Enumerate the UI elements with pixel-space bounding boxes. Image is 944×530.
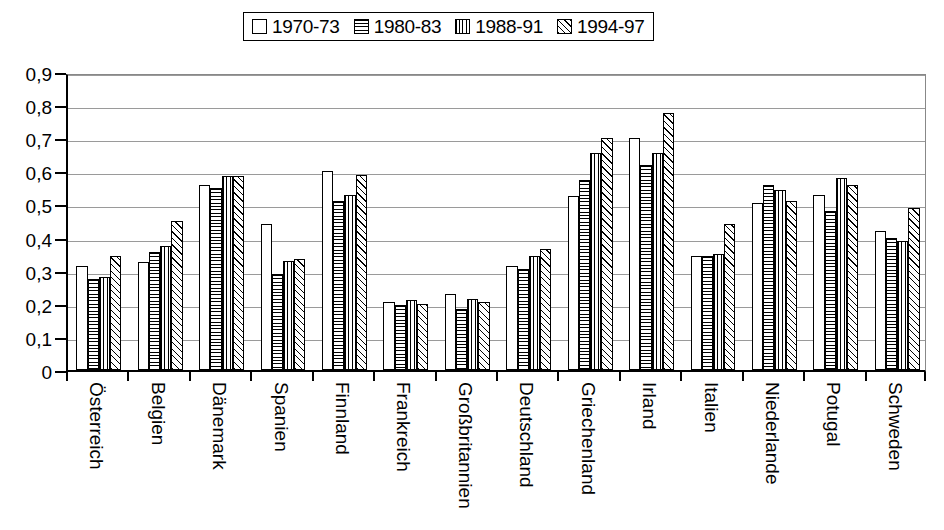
bar xyxy=(763,185,774,370)
bar xyxy=(261,224,272,370)
x-tick-mark xyxy=(127,372,129,381)
bar xyxy=(88,279,99,370)
x-tick-mark xyxy=(924,372,926,381)
bar xyxy=(713,254,724,370)
bar xyxy=(356,175,367,370)
legend-label: 1988-91 xyxy=(475,17,543,36)
y-tick-label: 0,2 xyxy=(26,296,52,315)
legend-swatch-horizontal-lines-icon xyxy=(354,19,369,34)
x-axis-label: Großbritannien xyxy=(456,382,475,509)
bar xyxy=(691,256,702,370)
legend-label: 1980-83 xyxy=(374,17,442,36)
bar xyxy=(272,274,283,370)
x-axis-label: Österreich xyxy=(87,382,106,470)
x-tick-mark xyxy=(435,372,437,381)
bar xyxy=(149,252,160,370)
bar-group xyxy=(252,75,313,370)
y-tick-mark xyxy=(55,305,66,307)
x-tick-mark xyxy=(619,372,621,381)
y-tick-mark xyxy=(55,139,66,141)
y-tick-mark xyxy=(55,172,66,174)
x-tick-mark xyxy=(373,372,375,381)
bar xyxy=(76,266,87,370)
bar xyxy=(222,176,233,370)
y-tick-label: 0,6 xyxy=(26,164,52,183)
y-tick-mark xyxy=(55,338,66,340)
bar xyxy=(568,196,579,370)
bar-group xyxy=(867,75,925,370)
x-axis-label: Italien xyxy=(702,382,721,433)
bar xyxy=(601,138,612,370)
bar xyxy=(138,262,149,370)
legend-entry-1980-83[interactable]: 1980-83 xyxy=(354,17,442,36)
x-tick-mark xyxy=(312,372,314,381)
bar-group xyxy=(191,75,252,370)
bar xyxy=(395,305,406,370)
bar-group xyxy=(437,75,498,370)
y-tick-label: 0,9 xyxy=(26,65,52,84)
x-tick-mark xyxy=(865,372,867,381)
bar xyxy=(774,190,785,370)
y-tick-mark xyxy=(55,106,66,108)
y-tick-mark xyxy=(55,239,66,241)
bar xyxy=(629,138,640,370)
bar xyxy=(702,256,713,370)
bar xyxy=(478,302,489,370)
bar-group xyxy=(805,75,866,370)
bar xyxy=(908,208,919,370)
y-tick-label: 0,4 xyxy=(26,230,52,249)
legend-entry-1970-73[interactable]: 1970-73 xyxy=(252,17,340,36)
legend-swatch-vertical-lines-icon xyxy=(455,19,470,34)
plot-frame xyxy=(66,74,926,372)
bar xyxy=(467,299,478,370)
bar xyxy=(171,221,182,370)
bar xyxy=(897,241,908,370)
x-tick-mark xyxy=(66,372,68,381)
plot-area xyxy=(68,75,925,370)
bar xyxy=(233,176,244,370)
bar-group xyxy=(375,75,436,370)
bar xyxy=(210,188,221,370)
bar xyxy=(406,300,417,370)
x-axis-label: Spanien xyxy=(272,382,291,452)
bar xyxy=(579,180,590,370)
bar-group xyxy=(68,75,129,370)
bar-group xyxy=(744,75,805,370)
x-axis-label: Finnland xyxy=(333,382,352,455)
bar xyxy=(383,302,394,370)
legend-entry-1994-97[interactable]: 1994-97 xyxy=(557,17,645,36)
bar xyxy=(160,246,171,370)
bar xyxy=(663,113,674,370)
x-axis-label: Frankreich xyxy=(394,382,413,472)
bar xyxy=(540,249,551,370)
bar xyxy=(333,201,344,370)
bar xyxy=(99,277,110,370)
legend-entry-1988-91[interactable]: 1988-91 xyxy=(455,17,543,36)
bar xyxy=(724,224,735,370)
bar xyxy=(199,185,210,370)
y-tick-mark xyxy=(55,272,66,274)
y-tick-mark xyxy=(55,73,66,75)
bar xyxy=(825,211,836,370)
bar-group xyxy=(129,75,190,370)
x-axis-label: Belgien xyxy=(149,382,168,445)
bar xyxy=(590,153,601,370)
bar xyxy=(110,256,121,370)
legend-swatch-empty-icon xyxy=(252,19,267,34)
bar xyxy=(456,309,467,370)
x-tick-mark xyxy=(250,372,252,381)
x-axis-label: Deutschland xyxy=(517,382,536,488)
y-tick-label: 0,1 xyxy=(26,329,52,348)
bar xyxy=(847,185,858,370)
bar xyxy=(836,178,847,370)
x-tick-mark xyxy=(557,372,559,381)
bar xyxy=(518,269,529,370)
bar xyxy=(417,304,428,370)
bar xyxy=(283,261,294,370)
y-tick-mark xyxy=(55,205,66,207)
legend-label: 1994-97 xyxy=(577,17,645,36)
bar xyxy=(640,165,651,370)
bar xyxy=(294,259,305,370)
bar xyxy=(322,171,333,370)
x-axis-labels: ÖsterreichBelgienDänemarkSpanienFinnland… xyxy=(66,382,926,522)
